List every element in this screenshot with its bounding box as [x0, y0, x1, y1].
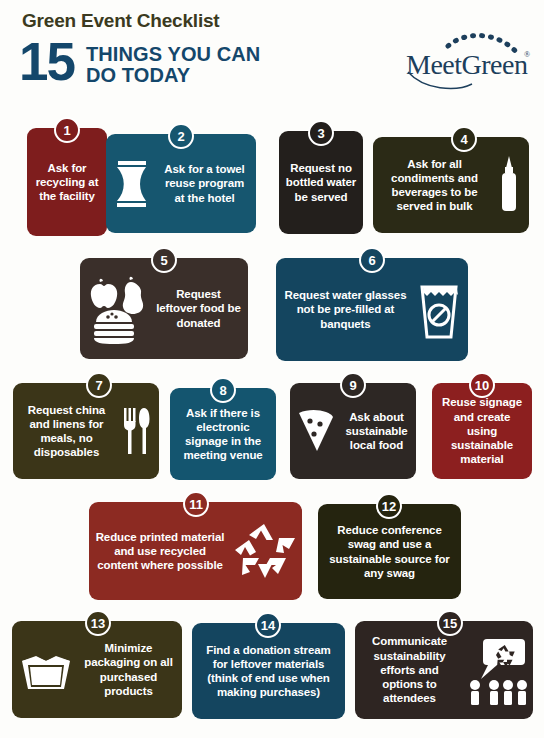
- meetgreen-logo: MeetGreen ®: [400, 32, 534, 94]
- card-number-badge: 7: [86, 372, 112, 398]
- card-number-badge: 6: [359, 247, 385, 273]
- card-number-badge: 9: [340, 372, 366, 398]
- checklist-card-2[interactable]: 2 Ask for a towel reuse program at the h…: [106, 134, 256, 233]
- card-text: Ask if there is electronic signage in th…: [176, 406, 270, 463]
- card-number-badge: 1: [54, 117, 80, 143]
- page-title: THINGS YOU CAN DO TODAY: [86, 44, 260, 86]
- checklist-card-12[interactable]: 12 Reduce conference swag and use a sust…: [318, 504, 461, 599]
- card-text: Communicate sustainability efforts and o…: [361, 634, 458, 705]
- checklist-card-4[interactable]: 4 Ask for all condiments and beverages t…: [373, 137, 529, 233]
- checklist-card-9[interactable]: 9 Ask about sustainable local food: [290, 383, 416, 479]
- card-text: Find a donation stream for leftover mate…: [198, 643, 339, 700]
- card-text: Request leftover food be donated: [155, 287, 242, 330]
- checklist-card-15[interactable]: 15 Communicate sustainability efforts an…: [355, 621, 533, 719]
- card-number-badge: 5: [151, 247, 177, 273]
- checklist-card-1[interactable]: 1 Ask for recycling at the facility: [27, 128, 107, 236]
- logo-wordmark: MeetGreen: [406, 49, 527, 81]
- fork-knife-icon: [121, 402, 153, 460]
- card-text: Ask about sustainable local food: [343, 410, 410, 453]
- card-number-badge: 10: [469, 372, 495, 398]
- condiment-bottle-icon: [497, 154, 523, 216]
- page-kicker: Green Event Checklist: [22, 10, 220, 32]
- checklist-card-7[interactable]: 7 Request china and linens for meals, no…: [13, 383, 159, 479]
- logo-registered-mark: ®: [524, 50, 530, 59]
- card-number-badge: 8: [210, 377, 236, 403]
- card-number-badge: 3: [308, 120, 334, 146]
- card-number-badge: 4: [451, 126, 477, 152]
- card-text: Reduce printed material and use recycled…: [95, 530, 225, 573]
- recycle-icon: [232, 520, 296, 582]
- card-text: Request no bottled water be served: [285, 161, 357, 204]
- no-prefilled-glass-icon: [416, 279, 462, 341]
- checklist-card-13[interactable]: 13 Minimize packaging on all purchased p…: [12, 621, 182, 718]
- card-text: Request china and linens for meals, no d…: [19, 403, 114, 460]
- checklist-card-3[interactable]: 3 Request no bottled water be served: [279, 131, 363, 234]
- checklist-card-11[interactable]: 11 Reduce printed material and use recyc…: [89, 502, 302, 600]
- open-box-icon: [18, 647, 74, 693]
- card-number-badge: 13: [85, 610, 111, 636]
- card-text: Minimize packaging on all purchased prod…: [81, 641, 176, 698]
- card-text: Ask for recycling at the facility: [33, 161, 101, 204]
- card-number-badge: 15: [437, 610, 463, 636]
- card-text: Ask for a towel reuse program at the hot…: [159, 162, 250, 205]
- page-header: Green Event Checklist 15 THINGS YOU CAN …: [0, 0, 544, 108]
- checklist-card-10[interactable]: 10 Reuse signage and create using sustai…: [432, 383, 532, 479]
- headline-line-2: DO TODAY: [86, 65, 260, 86]
- headline-line-1: THINGS YOU CAN: [86, 44, 260, 65]
- checklist-card-8[interactable]: 8 Ask if there is electronic signage in …: [170, 388, 276, 480]
- apple-pear-burger-icon: [86, 274, 148, 344]
- attendees-speech-recycle-icon: [465, 635, 527, 705]
- checklist-card-5[interactable]: 5 Request leftover food be donated: [80, 258, 248, 359]
- card-text: Reuse signage and create using sustainab…: [438, 395, 526, 466]
- card-number-badge: 12: [376, 493, 402, 519]
- card-text: Request water glasses not be pre-filled …: [282, 288, 409, 331]
- card-number-badge: 14: [255, 612, 281, 638]
- checklist-card-14[interactable]: 14 Find a donation stream for leftover m…: [192, 623, 345, 719]
- checklist-card-6[interactable]: 6 Request water glasses not be pre-fille…: [276, 258, 468, 361]
- card-text: Reduce conference swag and use a sustain…: [324, 523, 455, 580]
- infographic-page: Green Event Checklist 15 THINGS YOU CAN …: [0, 0, 544, 738]
- big-number: 15: [19, 36, 74, 88]
- card-number-badge: 2: [168, 123, 194, 149]
- card-text: Ask for all condiments and beverages to …: [379, 157, 490, 214]
- card-number-badge: 11: [183, 491, 209, 517]
- folded-towel-icon: [112, 155, 152, 213]
- pizza-slice-icon: [296, 405, 336, 457]
